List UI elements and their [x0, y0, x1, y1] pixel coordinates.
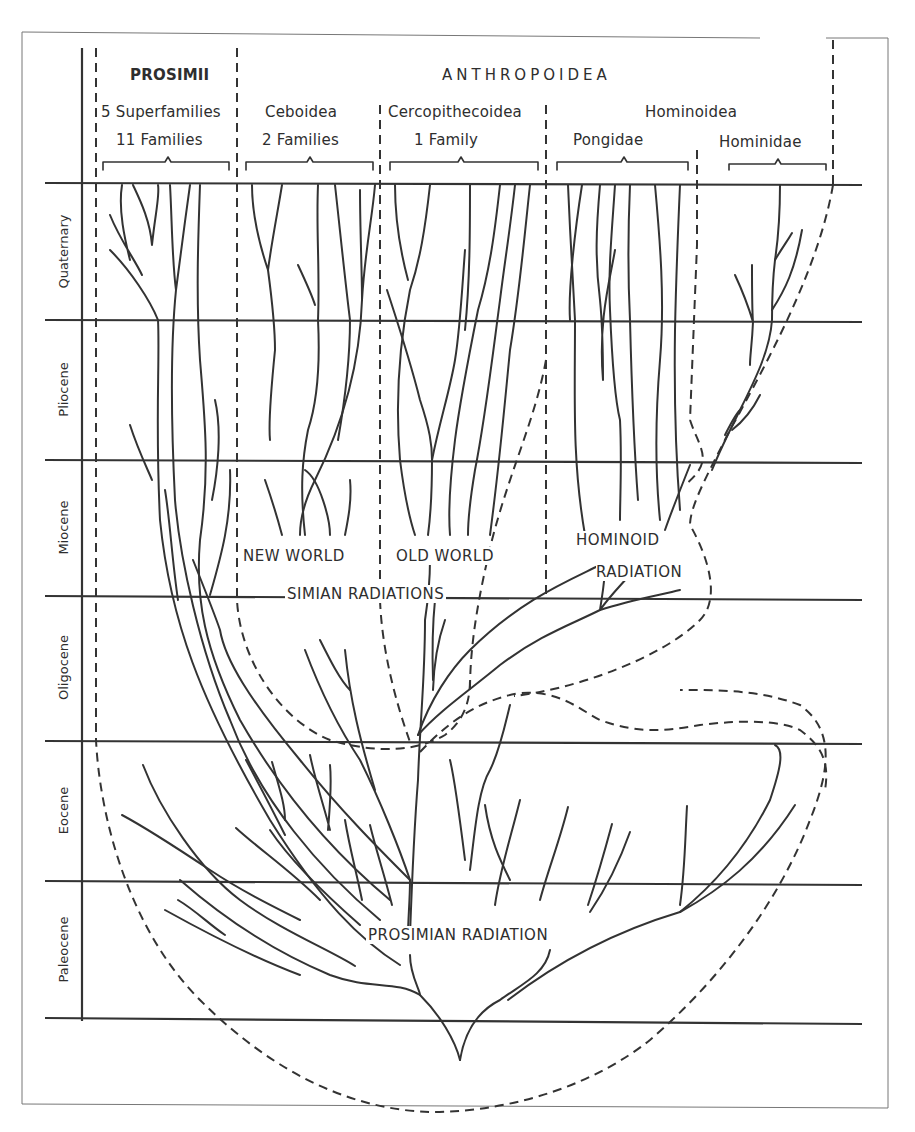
new-world-label: NEW WORLD: [243, 547, 345, 565]
prosimii-superfamilies-label: 5 Superfamilies: [101, 103, 221, 121]
tree-graphic: [0, 0, 915, 1132]
epoch-label-eocene: Eocene: [56, 751, 71, 871]
pongidae-lineages: [418, 185, 690, 735]
primate-phylogeny-diagram: PROSIMII 5 Superfamilies 11 Families ANT…: [0, 0, 915, 1132]
epoch-label-pliocene: Pliocene: [56, 330, 71, 450]
ceboidea-label: Ceboidea: [265, 103, 337, 121]
prosimii-families-label: 11 Families: [116, 131, 203, 149]
epoch-label-quaternary: Quaternary: [56, 192, 71, 312]
hominidae-lineages: [712, 185, 802, 470]
simian-radiations-label: SIMIAN RADIATIONS: [285, 585, 446, 603]
hominidae-label: Hominidae: [719, 133, 802, 151]
cercopithecoidea-lineages: [387, 185, 530, 690]
epoch-label-paleocene: Paleocene: [56, 890, 71, 1010]
hominoid-label: HOMINOID: [576, 531, 659, 549]
anthropoidea-title: ANTHROPOIDEA: [442, 66, 611, 84]
ceboidea-families-label: 2 Families: [262, 131, 339, 149]
group-dividers: [96, 40, 833, 1112]
epoch-label-oligocene: Oligocene: [56, 608, 71, 728]
prosimii-title: PROSIMII: [130, 66, 209, 84]
old-world-label: OLD WORLD: [396, 547, 494, 565]
header-braces: [103, 157, 826, 170]
outer-frame: [22, 32, 888, 1108]
hominoid-radiation-label: RADIATION: [596, 563, 682, 581]
epoch-boundaries: [45, 183, 862, 1024]
hominoidea-label: Hominoidea: [645, 103, 737, 121]
cercopithecoidea-family-label: 1 Family: [414, 131, 478, 149]
epoch-label-miocene: Miocene: [56, 468, 71, 588]
prosimian-radiation-label: PROSIMIAN RADIATION: [366, 926, 550, 944]
pongidae-label: Pongidae: [573, 131, 643, 149]
radiation-envelopes: [420, 185, 833, 790]
cercopithecoidea-label: Cercopithecoidea: [388, 103, 522, 121]
